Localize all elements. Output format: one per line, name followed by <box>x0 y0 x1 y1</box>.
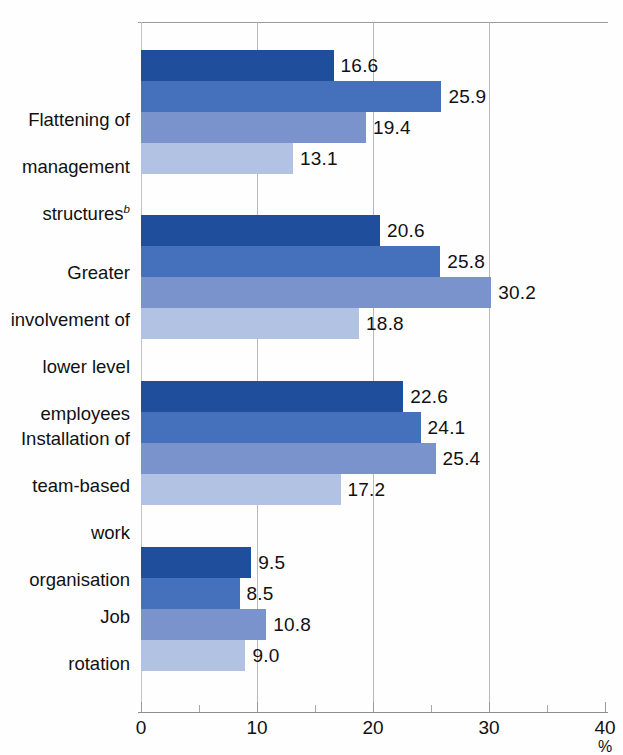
category-label-line: work <box>21 521 130 545</box>
bar-series-4[interactable] <box>141 640 245 671</box>
x-tick-30 <box>489 702 490 712</box>
x-tick-minor-15 <box>315 705 316 712</box>
bar-series-4[interactable] <box>141 143 293 174</box>
x-tick-10 <box>257 702 258 712</box>
bar-value-label: 10.8 <box>266 614 311 636</box>
bar-series-1[interactable] <box>141 50 334 81</box>
category-label-line: management <box>22 155 130 179</box>
bar-value-label: 16.6 <box>334 55 379 77</box>
category-label-line: team-based <box>21 474 130 498</box>
bar-series-4[interactable] <box>141 308 359 339</box>
x-axis-unit-label: % <box>598 738 612 755</box>
x-tick-0 <box>141 702 142 712</box>
bar-series-3[interactable] <box>141 443 436 474</box>
category-label-line: involvement of <box>11 308 130 332</box>
x-axis-line <box>138 712 608 713</box>
bar-value-label: 24.1 <box>421 417 466 439</box>
bar-value-label: 9.5 <box>251 552 285 574</box>
x-tick-label-30: 30 <box>478 717 499 739</box>
x-tick-40 <box>605 702 606 712</box>
bar-value-label: 13.1 <box>293 148 338 170</box>
footnote-marker: b <box>124 202 130 214</box>
category-label-line: Greater <box>11 261 130 285</box>
x-tick-minor-5 <box>199 705 200 712</box>
bar-value-label: 17.2 <box>341 479 386 501</box>
category-label-line: Flattening of <box>22 108 130 132</box>
bar-value-label: 30.2 <box>491 282 536 304</box>
bar-series-1[interactable] <box>141 547 251 578</box>
x-tick-label-10: 10 <box>246 717 267 739</box>
bar-series-3[interactable] <box>141 277 491 308</box>
bar-value-label: 25.9 <box>441 86 486 108</box>
category-label-line: rotation <box>68 652 130 676</box>
bar-value-label: 25.4 <box>436 448 481 470</box>
category-label-line: lower level <box>11 355 130 379</box>
x-tick-minor-35 <box>547 705 548 712</box>
category-label-line: Job <box>68 605 130 629</box>
bar-row: 9.5 <box>0 547 623 578</box>
bar-series-3[interactable] <box>141 609 266 640</box>
bar-row: 16.6 <box>0 50 623 81</box>
x-tick-label-0: 0 <box>136 717 147 739</box>
bar-series-4[interactable] <box>141 474 341 505</box>
bar-value-label: 18.8 <box>359 313 404 335</box>
bar-series-1[interactable] <box>141 215 380 246</box>
x-tick-minor-25 <box>431 705 432 712</box>
x-tick-20 <box>373 702 374 712</box>
category-label-job-rotation: Job rotation <box>68 581 130 699</box>
x-tick-label-20: 20 <box>362 717 383 739</box>
bar-series-3[interactable] <box>141 112 366 143</box>
x-tick-label-40: 40 <box>594 717 615 739</box>
bar-series-2[interactable] <box>141 412 421 443</box>
bar-value-label: 8.5 <box>240 583 274 605</box>
bar-value-label: 25.8 <box>440 251 485 273</box>
bar-series-2[interactable] <box>141 246 440 277</box>
bar-series-1[interactable] <box>141 381 403 412</box>
category-label-line: Installation of <box>21 427 130 451</box>
bar-series-2[interactable] <box>141 578 240 609</box>
bar-chart: 16.6 25.9 19.4 13.1 Flattening of manage… <box>0 0 623 755</box>
bar-series-2[interactable] <box>141 81 441 112</box>
bar-value-label: 22.6 <box>403 386 448 408</box>
bar-value-label: 20.6 <box>380 220 425 242</box>
bar-value-label: 19.4 <box>366 117 411 139</box>
bar-value-label: 9.0 <box>245 645 279 667</box>
